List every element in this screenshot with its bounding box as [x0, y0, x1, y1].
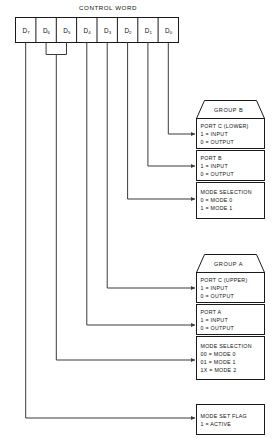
wire-bracket-d6-d5 [46, 43, 66, 55]
group-b-mode-heading: MODE SELECTION [201, 189, 252, 195]
group-a-mode-heading: MODE SELECTION [201, 343, 252, 349]
group-b-panel: GROUP B PORT C (LOWER) 1 = INPUT 0 = OUT… [197, 101, 265, 219]
group-b-port-b-line-2: 0 = OUTPUT [201, 171, 235, 177]
wire-d0-to-port-c-lower [168, 43, 195, 135]
group-a-port-c-upper-line-2: 0 = OUTPUT [201, 293, 235, 299]
group-b-mode-line-1: 0 = MODE 0 [201, 197, 233, 203]
mode-set-flag-box [197, 405, 265, 435]
group-b-port-b-line-1: 1 = INPUT [201, 163, 229, 169]
group-b-port-c-lower-heading: PORT C (LOWER) [201, 123, 249, 129]
mode-set-flag-panel: MODE SET FLAG 1 = ACTIVE [197, 405, 265, 435]
wire-d3-to-port-c-upper [107, 43, 195, 289]
wire-d2-to-group-b-mode [128, 43, 195, 200]
diagram-title: CONTROL WORD [79, 4, 137, 11]
wire-d1-to-port-b [148, 43, 195, 167]
wire-d6-d5-to-group-a-mode [56, 55, 195, 361]
group-a-mode-line-2: 01 = MODE 1 [201, 359, 236, 365]
group-a-mode-line-1: 00 = MODE 0 [201, 351, 236, 357]
group-a-port-c-upper-heading: PORT C (UPPER) [201, 277, 248, 283]
mode-set-flag-heading: MODE SET FLAG [201, 413, 248, 419]
group-a-mode-line-3: 1X = MODE 2 [201, 367, 237, 373]
group-a-port-a-line-1: 1 = INPUT [201, 317, 229, 323]
control-word-format-diagram: CONTROL WORD D 7 D 6 D 5 D 4 D 3 D 2 [0, 0, 275, 446]
group-a-port-a-heading: PORT A [201, 309, 222, 315]
mode-set-flag-line-1: 1 = ACTIVE [201, 421, 232, 427]
group-a-panel: GROUP A PORT C (UPPER) 1 = INPUT 0 = OUT… [197, 255, 265, 380]
wire-d4-to-port-a [87, 43, 195, 326]
group-b-mode-line-2: 1 = MODE 1 [201, 205, 233, 211]
group-a-port-a-line-2: 0 = OUTPUT [201, 325, 235, 331]
diagram-canvas: CONTROL WORD D 7 D 6 D 5 D 4 D 3 D 2 [0, 0, 275, 446]
group-b-port-b-heading: PORT B [201, 155, 222, 161]
group-a-port-c-upper-line-1: 1 = INPUT [201, 285, 229, 291]
wire-d7-to-mode-set-flag [26, 43, 195, 419]
group-b-port-c-lower-line-1: 1 = INPUT [201, 131, 229, 137]
group-a-label: GROUP A [214, 261, 243, 267]
group-b-label: GROUP B [214, 107, 243, 113]
group-b-port-c-lower-line-2: 0 = OUTPUT [201, 139, 235, 145]
